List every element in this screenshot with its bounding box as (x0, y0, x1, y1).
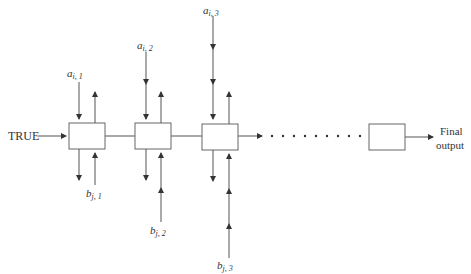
b-label-2: bj, 2 (150, 224, 166, 240)
b-label-3: bj, 3 (217, 259, 233, 274)
output-label-line1: Final (440, 125, 463, 137)
input-label: TRUE (8, 130, 39, 142)
ellipsis-dots (271, 135, 361, 137)
a-label-3: ai, 3 (203, 4, 219, 20)
output-label-line2: output (436, 139, 464, 151)
final-box (369, 124, 405, 150)
stage-box-1 (69, 123, 105, 149)
a-label-1: ai, 1 (67, 67, 83, 83)
pipeline-diagram (0, 0, 471, 274)
a-label-2: ai, 2 (137, 39, 153, 55)
stage-box-2 (135, 123, 171, 149)
b-label-1: bj, 1 (86, 187, 102, 203)
stage-box-3 (202, 124, 238, 150)
